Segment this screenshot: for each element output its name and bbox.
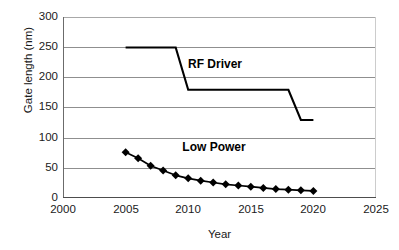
y-tick-label: 150: [18, 101, 58, 112]
x-axis-tick-labels: 2000 2005 2010 2015 2020 2025: [0, 203, 399, 223]
y-tick-label: 0: [18, 192, 58, 203]
x-tick-label: 2010: [158, 203, 218, 215]
series-markers-low-power: [122, 148, 318, 195]
chart-figure: Gate length (nm) 300 250 200 150 100 50 …: [0, 0, 399, 250]
x-tick-label: 2005: [96, 203, 156, 215]
y-tick-label: 200: [18, 71, 58, 82]
series-line-low-power: [126, 152, 314, 191]
y-tick-label: 300: [18, 11, 58, 22]
annotation-rf-driver: RF Driver: [188, 57, 242, 71]
y-tick-label: 250: [18, 41, 58, 52]
x-axis-title: Year: [63, 228, 376, 240]
y-tick-label: 50: [18, 162, 58, 173]
plot-area: RF Driver Low Power: [63, 17, 376, 198]
y-tick-label: 100: [18, 132, 58, 143]
x-tick-label: 2025: [346, 203, 399, 215]
x-tick-label: 2000: [33, 203, 93, 215]
x-tick-label: 2015: [221, 203, 281, 215]
annotation-low-power: Low Power: [182, 140, 246, 154]
x-tick-label: 2020: [283, 203, 343, 215]
